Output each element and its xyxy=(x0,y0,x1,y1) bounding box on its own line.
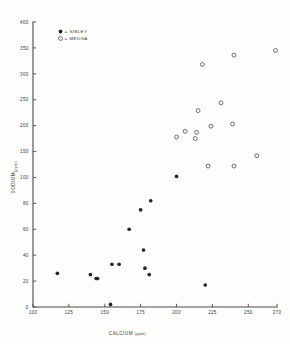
x-axis-title: CALCIUM xyxy=(109,331,133,336)
data-point xyxy=(274,49,278,53)
y-tick-label: 100 xyxy=(20,175,29,180)
data-point xyxy=(142,248,146,252)
data-point xyxy=(56,271,60,275)
y-axis-tick-labels: 020406080100150200250300350400 xyxy=(20,20,29,310)
y-tick-label: 80 xyxy=(23,201,29,206)
data-point xyxy=(117,262,121,266)
legend-marker-sibley xyxy=(59,30,63,34)
x-tick-label: 100 xyxy=(29,310,38,315)
legend-separator-medga: = xyxy=(65,36,68,41)
x-tick-label: 200 xyxy=(172,310,181,315)
data-point xyxy=(110,262,114,266)
axes xyxy=(33,22,277,307)
data-point xyxy=(139,208,143,212)
x-axis-tick-labels: 100125150175200225250270 xyxy=(29,310,282,315)
data-point xyxy=(200,63,204,67)
data-point xyxy=(175,135,179,139)
data-point xyxy=(149,199,153,203)
x-tick-label: 125 xyxy=(65,310,74,315)
data-point xyxy=(209,124,213,128)
legend-label-medga: MEDGA xyxy=(70,36,88,41)
legend-label-sibley: SIBLEY xyxy=(70,29,88,34)
series-medga-points xyxy=(175,49,278,168)
data-point xyxy=(143,266,147,270)
scatter-plot-figure: 100125150175200225250270 020406080100150… xyxy=(0,0,290,344)
data-point xyxy=(196,109,200,113)
x-tick-label: 250 xyxy=(244,310,253,315)
series-sibley-points xyxy=(56,175,208,307)
data-point xyxy=(89,273,93,277)
y-tick-label: 300 xyxy=(20,72,29,77)
chart-canvas: 100125150175200225250270 020406080100150… xyxy=(0,0,290,344)
y-axis-title: SODIUM xyxy=(11,172,16,193)
data-point xyxy=(232,53,236,57)
y-tick-label: 0 xyxy=(26,305,29,310)
x-tick-label: 175 xyxy=(136,310,145,315)
y-tick-label: 150 xyxy=(20,149,29,154)
data-point xyxy=(203,283,207,287)
data-point xyxy=(232,164,236,168)
data-point xyxy=(175,175,179,179)
x-tick-label: 225 xyxy=(208,310,217,315)
data-point xyxy=(255,154,259,158)
data-point xyxy=(147,273,151,277)
y-tick-label: 400 xyxy=(20,20,29,25)
y-tick-label: 60 xyxy=(23,227,29,232)
legend-marker-medga xyxy=(59,37,63,41)
data-point xyxy=(127,227,131,231)
legend-separator-sibley: = xyxy=(65,29,68,34)
data-point xyxy=(183,129,187,133)
y-tick-label: 40 xyxy=(23,253,29,258)
data-point xyxy=(109,303,113,307)
y-tick-label: 20 xyxy=(23,279,29,284)
data-point xyxy=(195,130,199,134)
data-point xyxy=(231,122,235,126)
data-point xyxy=(219,101,223,105)
y-tick-label: 250 xyxy=(20,97,29,102)
x-tick-label: 150 xyxy=(101,310,110,315)
y-tick-label: 350 xyxy=(20,46,29,51)
y-axis-unit: (ppm) xyxy=(14,161,18,172)
x-axis-unit: (ppm) xyxy=(135,332,146,336)
data-point xyxy=(96,277,100,281)
x-tick-label: 270 xyxy=(273,310,282,315)
y-tick-label: 200 xyxy=(20,123,29,128)
legend: = SIBLEY = MEDGA xyxy=(59,29,88,41)
data-point xyxy=(206,164,210,168)
axis-lines xyxy=(33,22,277,307)
data-point xyxy=(193,137,197,141)
